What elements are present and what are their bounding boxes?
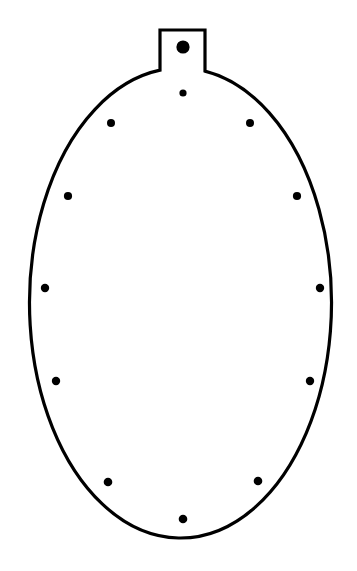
dot-mid-upper-right [293,192,301,200]
dot-mid-lower-right [306,377,314,385]
outline-group [29,30,331,538]
dot-mid-upper-left [64,192,72,200]
dot-bottom-center [179,515,188,524]
figure-canvas [0,0,357,571]
oval-tag-drawing [0,0,357,571]
dot-tab-large [176,40,189,53]
dot-lower-right [254,477,263,486]
oval-tag-outline-path [29,30,331,538]
dot-right-center [316,284,324,292]
dot-top-center [179,89,186,96]
dot-upper-right [246,119,254,127]
dot-upper-left [107,119,115,127]
dot-lower-left [104,478,113,487]
dot-left-center [41,284,49,292]
dot-mid-lower-left [52,377,60,385]
